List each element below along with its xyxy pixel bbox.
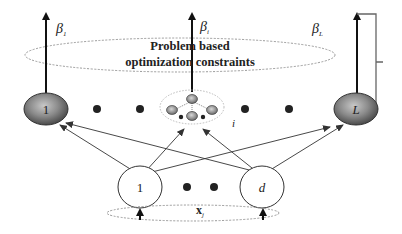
input-vector-ellipse [107, 205, 279, 221]
ellipsis-dot [241, 105, 249, 113]
ellipsis-dot [93, 105, 101, 113]
hidden-node-1-label: 1 [43, 102, 50, 117]
constraint-text-line1: Problem based [150, 39, 229, 53]
beta-L-label: βL [311, 21, 323, 38]
ellipsis-dot [136, 105, 144, 113]
ellipsis-dot [210, 183, 218, 191]
beta-1-label: β1 [55, 21, 66, 38]
constraint-text-line2: optimization constraints [125, 55, 255, 69]
input-node-d-label: d [259, 180, 266, 195]
hidden-node-i-label: i [232, 117, 235, 129]
hidden-node-i-cluster [160, 90, 224, 124]
input-node-1-label: 1 [137, 180, 144, 195]
ellipsis-dot [183, 183, 191, 191]
network-diagram: β1 βi βL Problem based optimization cons… [0, 0, 402, 234]
ellipsis-dot [285, 105, 293, 113]
beta-i-label: βi [199, 19, 209, 36]
hidden-node-L-label: L [351, 102, 359, 117]
connections [60, 123, 343, 173]
